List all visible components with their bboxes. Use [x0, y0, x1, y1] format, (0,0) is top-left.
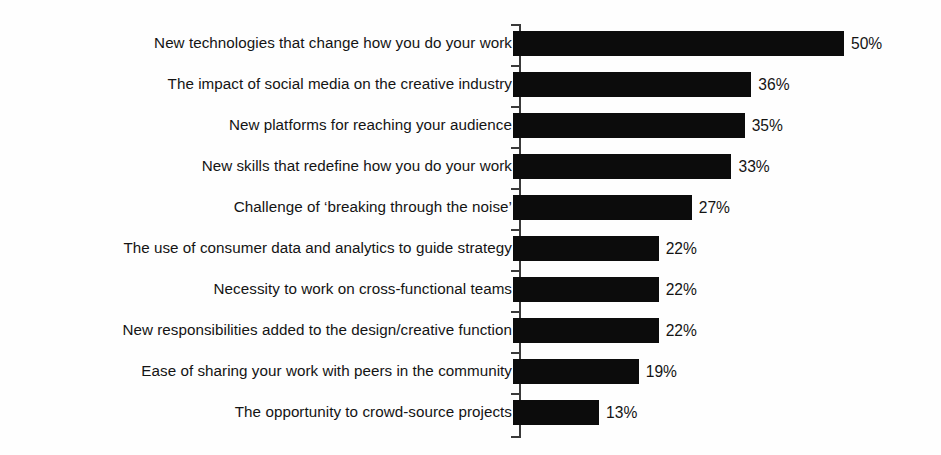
bar-value-label: 35%	[752, 117, 783, 135]
bar-value-label: 22%	[666, 240, 697, 258]
chart-row: The impact of social media on the creati…	[0, 64, 941, 105]
bar	[513, 359, 639, 384]
bar-zone: 22%	[512, 228, 941, 269]
chart-row: Challenge of ‘breaking through the noise…	[0, 187, 941, 228]
bar	[513, 113, 745, 138]
bar	[513, 72, 751, 97]
bar-zone: 35%	[512, 105, 941, 146]
chart-row: The use of consumer data and analytics t…	[0, 228, 941, 269]
chart-row: Necessity to work on cross-functional te…	[0, 269, 941, 310]
bar-zone: 36%	[512, 64, 941, 105]
category-label: The use of consumer data and analytics t…	[0, 240, 512, 257]
category-label: Ease of sharing your work with peers in …	[0, 363, 512, 380]
bar-value-label: 22%	[666, 281, 697, 299]
bar	[513, 31, 844, 56]
category-label: Challenge of ‘breaking through the noise…	[0, 199, 512, 216]
chart-row: New skills that redefine how you do your…	[0, 146, 941, 187]
bar-zone: 13%	[512, 392, 941, 433]
bar-value-label: 50%	[851, 35, 882, 53]
bar-chart: New technologies that change how you do …	[0, 0, 941, 455]
axis-tick	[511, 436, 520, 438]
bar-zone: 27%	[512, 187, 941, 228]
bar-zone: 22%	[512, 310, 941, 351]
bar-value-label: 22%	[666, 322, 697, 340]
bar-zone: 33%	[512, 146, 941, 187]
bar-zone: 22%	[512, 269, 941, 310]
bar-value-label: 36%	[758, 76, 789, 94]
bar-value-label: 33%	[738, 158, 769, 176]
bar-zone: 19%	[512, 351, 941, 392]
category-label: New skills that redefine how you do your…	[0, 158, 512, 175]
bar	[513, 195, 692, 220]
category-label: Necessity to work on cross-functional te…	[0, 281, 512, 298]
chart-row: The opportunity to crowd-source projects…	[0, 392, 941, 433]
bar-value-label: 27%	[699, 199, 730, 217]
bar	[513, 318, 659, 343]
category-label: The impact of social media on the creati…	[0, 76, 512, 93]
bar-value-label: 19%	[646, 363, 677, 381]
bar	[513, 154, 731, 179]
chart-row: New platforms for reaching your audience…	[0, 105, 941, 146]
category-label: New platforms for reaching your audience	[0, 117, 512, 134]
chart-row: New technologies that change how you do …	[0, 23, 941, 64]
bar	[513, 400, 599, 425]
chart-row: New responsibilities added to the design…	[0, 310, 941, 351]
chart-row: Ease of sharing your work with peers in …	[0, 351, 941, 392]
category-label: New responsibilities added to the design…	[0, 322, 512, 339]
category-label: The opportunity to crowd-source projects	[0, 404, 512, 421]
bar-value-label: 13%	[606, 404, 637, 422]
category-label: New technologies that change how you do …	[0, 35, 512, 52]
bar-zone: 50%	[512, 23, 941, 64]
bar	[513, 277, 659, 302]
bar	[513, 236, 659, 261]
